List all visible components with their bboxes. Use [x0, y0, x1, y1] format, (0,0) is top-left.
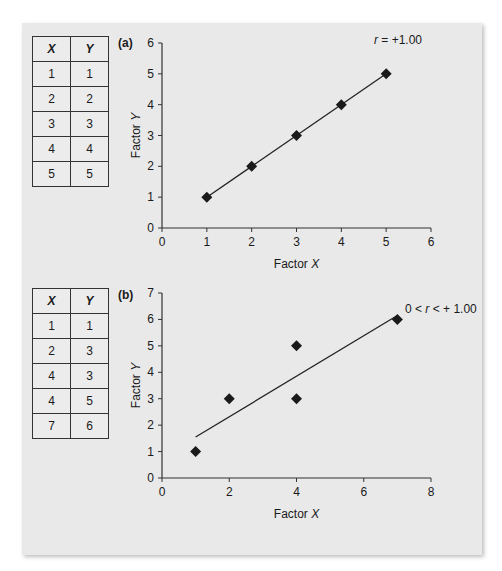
y-tick-label: 1: [147, 190, 154, 204]
y-tick-label: 7: [147, 286, 154, 300]
y-axis-label: Factor Y: [129, 362, 143, 408]
x-axis-label: Factor X: [274, 507, 320, 521]
y-tick-label: 0: [147, 221, 154, 235]
y-tick-label: 5: [147, 339, 154, 353]
y-axis-label: Factor Y: [129, 112, 143, 158]
x-tick-label: 6: [428, 235, 435, 249]
data-point-diamond: [201, 192, 212, 203]
x-axis-label: Factor X: [274, 257, 320, 271]
data-point-diamond: [291, 340, 302, 351]
y-tick-label: 6: [147, 36, 154, 50]
y-tick-label: 1: [147, 445, 154, 459]
y-tick-label: 3: [147, 392, 154, 406]
trend-line: [196, 315, 398, 437]
x-tick-label: 2: [248, 235, 255, 249]
data-point-diamond: [291, 130, 302, 141]
x-tick-label: 6: [360, 485, 367, 499]
x-tick-label: 5: [383, 235, 390, 249]
data-point-diamond: [291, 393, 302, 404]
y-tick-label: 0: [147, 471, 154, 485]
y-tick-label: 2: [147, 418, 154, 432]
data-point-diamond: [392, 314, 403, 325]
y-tick-label: 3: [147, 129, 154, 143]
x-tick-label: 3: [293, 235, 300, 249]
y-tick-label: 4: [147, 365, 154, 379]
x-tick-label: 4: [338, 235, 345, 249]
y-tick-label: 6: [147, 312, 154, 326]
x-tick-label: 4: [293, 485, 300, 499]
x-tick-label: 0: [159, 485, 166, 499]
y-tick-label: 2: [147, 159, 154, 173]
x-tick-label: 8: [428, 485, 435, 499]
data-point-diamond: [336, 99, 347, 110]
correlation-annotation: r = +1.00: [374, 33, 422, 47]
y-tick-label: 5: [147, 67, 154, 81]
y-tick-label: 4: [147, 98, 154, 112]
data-point-diamond: [381, 68, 392, 79]
x-tick-label: 1: [203, 235, 210, 249]
data-point-diamond: [224, 393, 235, 404]
x-tick-label: 0: [159, 235, 166, 249]
correlation-annotation: 0 < r < + 1.00: [405, 302, 477, 316]
data-point-diamond: [246, 161, 257, 172]
charts-canvas: 01234560123456Factor XFactor Yr = +1.000…: [0, 0, 502, 571]
data-point-diamond: [190, 446, 201, 457]
x-tick-label: 2: [226, 485, 233, 499]
